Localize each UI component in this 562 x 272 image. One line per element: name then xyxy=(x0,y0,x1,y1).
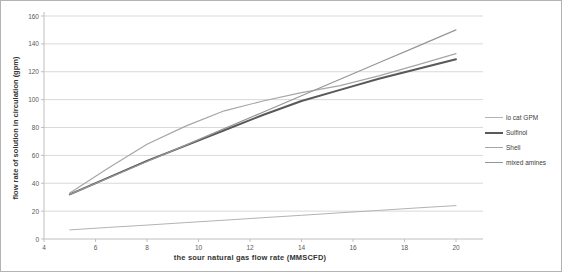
y-tick-label-0: 0 xyxy=(35,236,39,243)
x-tick-label-20: 20 xyxy=(452,244,460,251)
y-tick-label-80: 80 xyxy=(32,124,40,131)
y-tick-label-140: 140 xyxy=(28,40,39,47)
x-tick-label-14: 14 xyxy=(298,244,306,251)
x-tick-label-8: 8 xyxy=(145,244,149,251)
legend-item-shell: Shell xyxy=(485,143,546,152)
chart-canvas: 020406080100120140160468101214161820 xyxy=(1,1,562,272)
legend-label: Sulfinol xyxy=(506,129,527,136)
legend-label: mixed amines xyxy=(506,159,546,166)
legend-label: Shell xyxy=(506,144,520,151)
chart-figure: 020406080100120140160468101214161820 flo… xyxy=(0,0,562,272)
series-line-mixed-amines xyxy=(70,30,456,195)
y-tick-label-100: 100 xyxy=(28,96,39,103)
legend-label: lo cat GPM xyxy=(506,114,538,121)
x-tick-label-4: 4 xyxy=(42,244,46,251)
series-line-lo-cat-gpm xyxy=(70,206,456,230)
y-tick-label-160: 160 xyxy=(28,13,39,20)
y-axis-label: flow rate of solution in circulation (gp… xyxy=(11,57,20,200)
legend-item-sulfinol: Sulfinol xyxy=(485,128,546,137)
x-tick-label-12: 12 xyxy=(246,244,254,251)
legend-marker-icon xyxy=(485,117,503,118)
legend: lo cat GPMSulfinolShellmixed amines xyxy=(485,113,546,167)
x-tick-label-10: 10 xyxy=(195,244,203,251)
series-line-sulfinol xyxy=(70,59,456,194)
y-tick-label-60: 60 xyxy=(32,152,40,159)
legend-item-mixed-amines: mixed amines xyxy=(485,158,546,167)
x-tick-label-16: 16 xyxy=(349,244,357,251)
y-tick-label-40: 40 xyxy=(32,180,40,187)
y-tick-label-20: 20 xyxy=(32,208,40,215)
legend-marker-icon xyxy=(485,162,503,163)
legend-marker-icon xyxy=(485,147,503,148)
legend-marker-icon xyxy=(485,132,503,134)
y-tick-label-120: 120 xyxy=(28,68,39,75)
x-tick-label-18: 18 xyxy=(401,244,409,251)
x-tick-label-6: 6 xyxy=(94,244,98,251)
x-axis-label: the sour natural gas flow rate (MMSCFD) xyxy=(44,253,456,262)
legend-item-lo-cat-gpm: lo cat GPM xyxy=(485,113,546,122)
